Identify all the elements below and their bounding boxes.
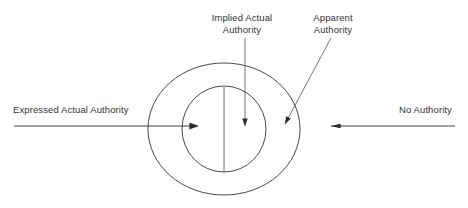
label-no-authority: No Authority: [399, 104, 465, 116]
label-expressed-actual-authority: Expressed Actual Authority: [13, 104, 173, 116]
authority-diagram: Implied Actual Authority Apparent Author…: [0, 0, 468, 208]
label-implied-actual-authority: Implied Actual Authority: [196, 12, 288, 35]
apparent-authority-arrow: [285, 38, 331, 124]
label-apparent-authority: Apparent Authority: [300, 12, 366, 35]
